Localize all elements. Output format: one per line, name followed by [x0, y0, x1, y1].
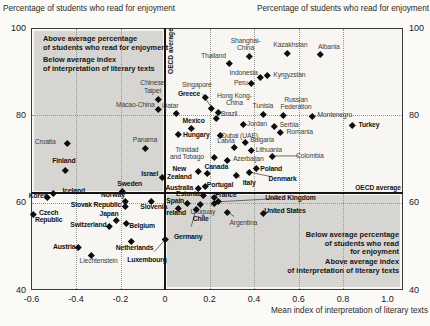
- country-label-israel: Israel: [141, 170, 158, 177]
- country-label-jordan: Jordan: [247, 120, 267, 127]
- country-label-ireland: Ireland: [165, 209, 186, 216]
- country-label-brazil: Brazil: [221, 110, 237, 117]
- x-tick-0.6: 0.6: [284, 294, 314, 304]
- x-tick-0: 0: [150, 294, 180, 304]
- country-label-luxembourg: Luxembourg: [127, 256, 167, 263]
- pisa-scatter-figure: { "chart_data": { "type": "scatter", "ti…: [0, 0, 430, 326]
- country-label-belgium: Belgium: [129, 222, 155, 229]
- country-label-tunisia: Tunisia: [253, 102, 274, 109]
- country-label-japan: Japan: [100, 210, 119, 217]
- country-label-portugal: Portugal: [207, 181, 233, 188]
- y-axis-title-right: Percentage of students who read for enjo…: [257, 4, 429, 13]
- y-axis-title-left: Percentage of students who read for enjo…: [3, 4, 175, 13]
- country-label-indonesia: Indonesia: [230, 69, 258, 76]
- y-tick-right-40: 40: [409, 285, 419, 295]
- country-label-czech-republic: Czech Republic: [35, 209, 63, 224]
- country-label-korea: Korea: [29, 192, 48, 199]
- y-tick-right-100: 100: [409, 23, 424, 33]
- country-label-romania: Romania: [287, 128, 313, 135]
- country-label-azerbaijan: Azerbaijan: [233, 155, 264, 162]
- country-label-new-zealand: New Zealand: [167, 165, 192, 180]
- y-tick-left-40: 40: [0, 285, 26, 295]
- country-label-albania: Albania: [318, 43, 340, 50]
- country-label-spain: Spain: [166, 197, 184, 204]
- country-label-argentina: Argentina: [229, 219, 257, 226]
- country-label-montenegro: Montenegro: [317, 111, 352, 118]
- quadrant-note-bottom-right-2: Above average index of interpretation of…: [249, 258, 399, 275]
- country-label-thailand: Thailand: [201, 52, 226, 59]
- country-label-panama: Panama: [133, 136, 157, 143]
- x-tick--0.2: -0.2: [106, 294, 136, 304]
- country-label-greece: Greece: [178, 90, 200, 97]
- country-label-bulgaria: Bulgaria: [250, 136, 274, 143]
- y-tick-right-80: 80: [409, 110, 419, 120]
- country-label-finland: Finland: [52, 157, 75, 164]
- country-label-canada: Canada: [204, 163, 228, 170]
- country-label-iceland: Iceland: [63, 187, 85, 194]
- country-label-switzerland: Switzerland: [70, 221, 106, 228]
- country-label-turkey: Turkey: [358, 121, 379, 128]
- country-label-poland: Poland: [260, 165, 282, 172]
- country-label-shanghai-china: Shanghai- China: [231, 36, 261, 51]
- y-tick-left-80: 80: [0, 110, 26, 120]
- y-tick-left-60: 60: [0, 197, 26, 207]
- country-label-kyrgyzstan: Kyrgyzstan: [273, 71, 305, 78]
- country-label-peru: Peru: [234, 79, 248, 86]
- country-label-denmark: Denmark: [269, 175, 297, 182]
- country-label-colombia: Colombia: [296, 152, 324, 159]
- country-label-kazakhstan: Kazakhstan: [273, 41, 307, 48]
- x-tick-0.2: 0.2: [195, 294, 225, 304]
- country-label-netherlands: Netherlands: [116, 244, 154, 251]
- country-label-italy: Italy: [243, 179, 256, 186]
- country-label-germany: Germany: [174, 233, 202, 240]
- country-label-qatar: Qatar: [162, 102, 178, 109]
- country-label-united-kingdom: United Kingdom: [265, 194, 315, 201]
- country-label-russian-federation: Russian Federation: [280, 95, 311, 110]
- country-label-trinidad-and-tobago: Trinidad and Tobago: [170, 145, 204, 160]
- country-label-singapore: Singapore: [182, 81, 212, 88]
- country-label-chile: Chile: [193, 215, 209, 222]
- country-label-macao-china: Macao-China: [116, 101, 155, 108]
- y-tick-right-60: 60: [409, 197, 419, 207]
- x-tick--0.6: -0.6: [17, 294, 47, 304]
- country-label-slovak-republic: Slovak Republic: [71, 201, 121, 208]
- country-label-slovenia: Slovenia: [140, 203, 167, 210]
- gridline-x-0.2: [210, 29, 211, 289]
- x-tick--0.4: -0.4: [61, 294, 91, 304]
- country-label-hong-kong-china: Hong Kong- China: [217, 91, 252, 106]
- country-label-croatia: Croatia: [35, 138, 56, 145]
- oecd-average-vertical-label: OECD average: [167, 28, 174, 74]
- quadrant-note-bottom-right-1: Below average percentage of students who…: [259, 231, 399, 257]
- country-label-australia: Australia: [166, 184, 194, 191]
- country-label-mexico: Mexico: [183, 117, 205, 124]
- x-tick-0.8: 0.8: [328, 294, 358, 304]
- country-label-austria: Austria: [53, 243, 75, 250]
- oecd-average-horizontal-label: OECD average: [355, 184, 401, 191]
- quadrant-note-top-left-2: Below average index of interpretation of…: [43, 56, 203, 73]
- country-label-liechtenstein: Liechtenstein: [80, 257, 118, 264]
- scatter-chart: Percentage of students who read for enjo…: [0, 0, 430, 326]
- x-axis-title: Mean index of interpretation of literary…: [271, 306, 428, 315]
- country-label-norway: Norway: [101, 191, 125, 198]
- country-label-united-states: United States: [264, 207, 305, 214]
- x-tick-1.0: 1.0: [373, 294, 403, 304]
- quadrant-note-top-left-1: Above average percentage of students who…: [43, 35, 203, 52]
- x-tick-0.4: 0.4: [239, 294, 269, 304]
- country-label-sweden: Sweden: [117, 180, 142, 187]
- country-label-chinese-taipei: Chinese Taipei: [140, 79, 164, 94]
- country-label-latvia: Latvia: [217, 137, 234, 144]
- y-tick-left-100: 100: [0, 23, 26, 33]
- country-label-lithuania: Lithuania: [256, 146, 282, 153]
- country-label-hungary: Hungary: [183, 131, 210, 138]
